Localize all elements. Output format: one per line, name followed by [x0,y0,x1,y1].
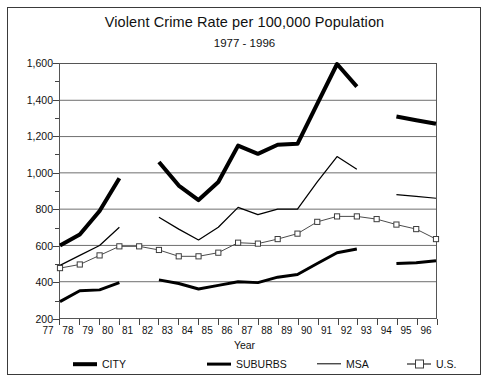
x-axis-tick-label: 79 [77,325,99,336]
y-axis-tick-label: 1,400 [7,94,53,106]
data-point-marker [196,254,201,259]
series-line-suburbs [60,283,119,302]
thick-line-swatch [73,357,97,371]
y-axis-tick [53,209,59,210]
y-axis-tick-label: 600 [7,240,53,252]
series-line-msa [159,157,357,240]
series-line-msa [396,195,436,199]
chart-title: Violent Crime Rate per 100,000 Populatio… [0,14,489,30]
series-line-suburbs [396,261,436,264]
data-point-marker [97,253,102,258]
y-axis-minor-tick [55,81,59,82]
legend-item-city[interactable]: CITY [73,355,126,373]
y-axis-tick-label: 800 [7,203,53,215]
y-axis-tick-label: 200 [7,313,53,325]
x-axis-tick-label: 80 [97,325,119,336]
y-axis-minor-tick [55,118,59,119]
x-axis-tick-label: 96 [415,325,437,336]
legend-label: CITY [102,358,126,370]
series-line-city [159,64,357,200]
data-point-marker [354,214,359,219]
x-axis-tick-label: 93 [355,325,377,336]
data-point-marker [216,250,221,255]
x-axis-tick-label: 81 [117,325,139,336]
y-axis-tick [53,246,59,247]
series-line-city [396,117,436,124]
medium-line-swatch [207,357,231,371]
x-axis-title: Year [0,339,489,351]
data-point-marker [315,219,320,224]
data-point-marker [57,266,62,271]
y-axis-minor-tick [55,264,59,265]
series-line-suburbs [159,249,357,289]
x-axis-tick [437,319,438,325]
legend-label: MSA [346,358,369,370]
data-point-marker [433,237,438,242]
data-point-marker [137,244,142,249]
data-point-marker [374,217,379,222]
data-point-marker [295,231,300,236]
y-axis-tick-label: 400 [7,276,53,288]
y-axis-tick-label: 1,600 [7,57,53,69]
x-axis-tick-label: 87 [236,325,258,336]
data-point-marker [275,237,280,242]
gridlines [60,100,436,281]
data-point-marker [176,254,181,259]
square-marker-line-swatch [407,357,431,371]
x-axis-tick-label: 90 [296,325,318,336]
y-axis-tick [53,282,59,283]
x-axis-tick-label: 95 [395,325,417,336]
x-axis-tick-label: 78 [57,325,79,336]
legend-label: SUBURBS [236,358,287,370]
data-point-marker [414,227,419,232]
legend-item-msa[interactable]: MSA [317,355,369,373]
data-point-marker [117,244,122,249]
x-axis-tick-label: 86 [216,325,238,336]
data-point-marker [255,241,260,246]
legend-label: U.S. [436,358,456,370]
x-axis-tick-label: 85 [196,325,218,336]
legend-square-marker [415,360,424,369]
legend-item-suburbs[interactable]: SUBURBS [207,355,287,373]
data-point-marker [334,214,339,219]
x-axis-tick-label: 91 [316,325,338,336]
chart-figure: Violent Crime Rate per 100,000 Populatio… [0,0,489,383]
x-axis-tick-label: 82 [136,325,158,336]
chart-legend: CITYSUBURBSMSAU.S. [59,355,437,373]
legend-line [73,362,97,366]
chart-subtitle: 1977 - 1996 [0,37,489,49]
data-point-marker [156,247,161,252]
legend-line [317,363,341,364]
data-series [57,64,438,302]
y-axis-tick [53,100,59,101]
y-axis-minor-tick [55,301,59,302]
data-point-marker [394,222,399,227]
y-axis-tick [53,136,59,137]
thin-line-swatch [317,357,341,371]
x-axis-tick-label: 89 [276,325,298,336]
y-axis-minor-tick [55,191,59,192]
data-point-marker [77,262,82,267]
y-axis-tick [53,63,59,64]
x-axis-tick-label: 88 [256,325,278,336]
x-axis-tick-label: 92 [335,325,357,336]
legend-item-us[interactable]: U.S. [407,355,456,373]
x-axis-tick-label: 83 [156,325,178,336]
x-axis-tick-label: 77 [37,325,59,336]
series-line-us [60,216,436,268]
plot-area [59,63,437,319]
x-axis-tick-label: 84 [176,325,198,336]
plot-svg [60,64,436,318]
legend-line [207,363,231,366]
y-axis-minor-tick [55,154,59,155]
data-point-marker [236,240,241,245]
y-axis-tick-label: 1,200 [7,130,53,142]
y-axis-minor-tick [55,228,59,229]
x-axis-tick-label: 94 [375,325,397,336]
y-axis-tick-label: 1,000 [7,167,53,179]
y-axis-tick [53,173,59,174]
